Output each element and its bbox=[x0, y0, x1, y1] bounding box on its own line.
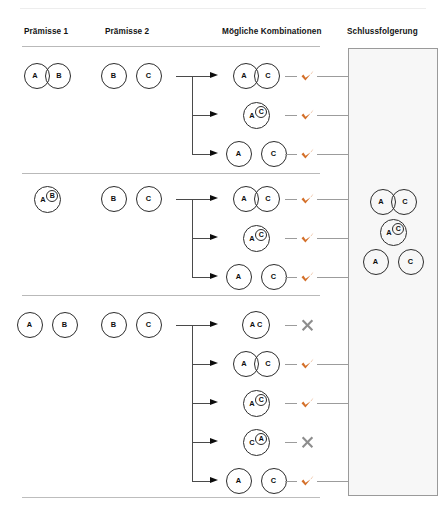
syllogism-diagram: Prämisse 1 Prämisse 2 Mögliche Kombinati… bbox=[0, 0, 444, 516]
venn-label-left: A bbox=[373, 258, 378, 265]
venn-disjoint-conclusion-2: AC bbox=[0, 0, 444, 516]
venn-label-right: C bbox=[408, 258, 413, 265]
